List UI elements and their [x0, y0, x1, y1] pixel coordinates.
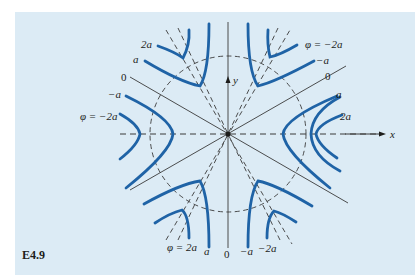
curve-right-a: [283, 96, 337, 188]
curve-right-2a: [316, 115, 342, 158]
labels-bottom: φ = 2a a 0 −a −2a: [167, 241, 277, 260]
y-arrow-icon: [226, 76, 231, 83]
curve-topleft-2a: [158, 30, 189, 58]
label-minus-2a: −2a: [258, 242, 277, 254]
label-phi-minus-2a: φ = −2a: [305, 38, 343, 50]
label-2a: 2a: [141, 38, 153, 50]
curve-topright-minus2a: [268, 30, 297, 57]
curve-bottomright-minus2a: [267, 211, 296, 238]
y-axis-label: y: [232, 74, 238, 86]
curve-topright-minus-a: [248, 24, 314, 86]
curve-bottomleft-2a: [155, 210, 189, 238]
label-2a: 2a: [340, 110, 352, 122]
label-0: 0: [224, 248, 230, 260]
label-a: a: [204, 245, 210, 257]
equipotential-diagram: x y 2a a 0 −a φ =: [0, 0, 415, 275]
x-axis-label: x: [389, 128, 395, 140]
curve-left-minus2a: [120, 114, 140, 159]
x-arrow-icon: [379, 132, 386, 137]
label-a: a: [336, 88, 342, 100]
curve-bottomleft-a: [144, 181, 209, 247]
label-minus-a: −a: [240, 245, 253, 257]
origin-point: [226, 132, 231, 137]
line-minus-30: [130, 77, 348, 203]
label-0: 0: [325, 70, 331, 82]
label-a: a: [133, 53, 139, 65]
labels-top-left: 2a a 0 −a φ = −2a: [80, 38, 153, 122]
label-0: 0: [121, 71, 127, 83]
label-phi-minus-2a: φ = −2a: [80, 110, 118, 122]
label-minus-a: −a: [108, 88, 121, 100]
y-axis: y: [226, 74, 239, 86]
line-plus-30: [130, 66, 346, 190]
curve-left-minus-a: [126, 96, 173, 188]
label-phi-2a: φ = 2a: [167, 241, 198, 253]
label-minus-a: −a: [316, 54, 329, 66]
figure-label: E4.9: [22, 248, 45, 262]
labels-top-right: φ = −2a −a 0 a 2a: [305, 38, 352, 122]
x-axis: x: [345, 128, 395, 140]
